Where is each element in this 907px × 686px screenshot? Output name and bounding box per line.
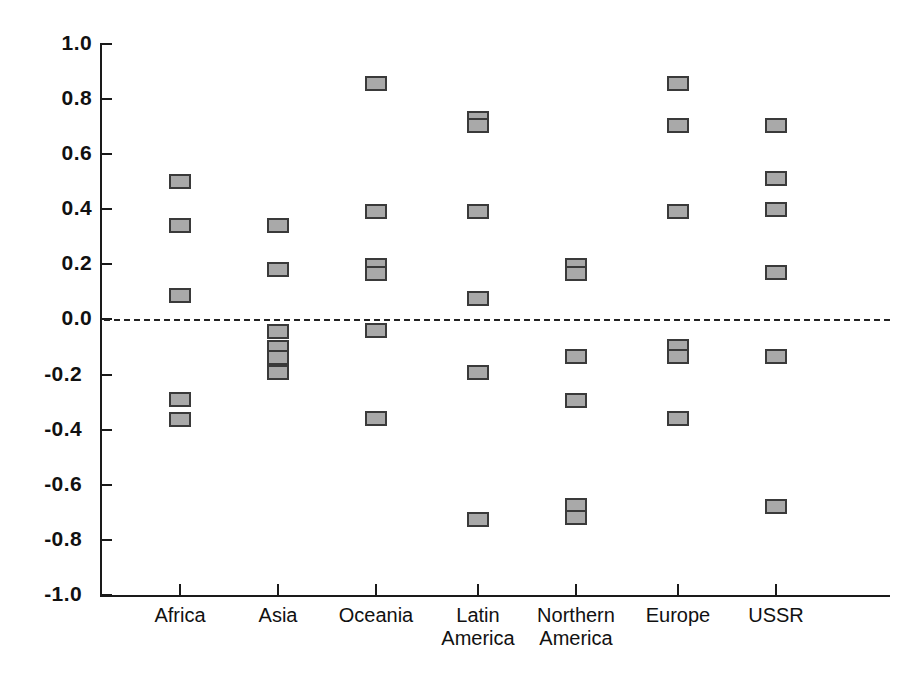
x-tick-label-ussr: USSR bbox=[711, 604, 841, 627]
y-tick-mark bbox=[102, 153, 112, 155]
x-tick-mark bbox=[277, 584, 279, 595]
x-tick-mark bbox=[775, 584, 777, 595]
data-point-marker bbox=[267, 262, 289, 277]
plot-area: 1.0 0.8 0.6 0.4 0.2 0.0 -0.2 -0.4 -0.6 -… bbox=[0, 0, 907, 686]
y-tick-mark bbox=[102, 98, 112, 100]
x-tick-mark bbox=[575, 584, 577, 595]
data-point-marker bbox=[365, 204, 387, 219]
data-point-marker bbox=[169, 218, 191, 233]
x-tick-mark bbox=[477, 584, 479, 595]
data-point-marker bbox=[667, 349, 689, 364]
data-point-marker bbox=[565, 266, 587, 281]
data-point-marker bbox=[365, 411, 387, 426]
data-point-marker bbox=[565, 349, 587, 364]
data-point-marker bbox=[667, 411, 689, 426]
data-point-marker bbox=[765, 499, 787, 514]
y-tick-label-7: -0.2 bbox=[12, 362, 82, 386]
data-point-marker bbox=[169, 288, 191, 303]
chart-root: 1.0 0.8 0.6 0.4 0.2 0.0 -0.2 -0.4 -0.6 -… bbox=[0, 0, 907, 686]
x-axis-line bbox=[100, 595, 890, 597]
data-point-marker bbox=[267, 218, 289, 233]
data-point-marker bbox=[765, 349, 787, 364]
y-tick-label-11: -1.0 bbox=[12, 582, 82, 606]
data-point-marker bbox=[765, 265, 787, 280]
data-point-marker bbox=[667, 118, 689, 133]
data-point-marker bbox=[169, 392, 191, 407]
data-point-marker bbox=[565, 510, 587, 525]
data-point-marker bbox=[365, 266, 387, 281]
x-tick-mark bbox=[677, 584, 679, 595]
data-point-marker bbox=[667, 76, 689, 91]
y-tick-mark bbox=[102, 43, 112, 45]
y-tick-label-8: -0.4 bbox=[12, 417, 82, 441]
data-point-marker bbox=[267, 324, 289, 339]
y-tick-label-9: -0.6 bbox=[12, 472, 82, 496]
x-tick-mark bbox=[375, 584, 377, 595]
y-tick-label-10: -0.8 bbox=[12, 527, 82, 551]
data-point-marker bbox=[267, 350, 289, 365]
data-point-marker bbox=[169, 174, 191, 189]
zero-reference-line bbox=[104, 319, 890, 321]
y-tick-label-5: 0.2 bbox=[22, 251, 92, 275]
data-point-marker bbox=[467, 291, 489, 306]
data-point-marker bbox=[565, 393, 587, 408]
y-tick-mark bbox=[102, 539, 112, 541]
y-tick-label-6: 0.0 bbox=[22, 306, 92, 330]
y-tick-label-4: 0.4 bbox=[22, 196, 92, 220]
data-point-marker bbox=[765, 118, 787, 133]
data-point-marker bbox=[765, 171, 787, 186]
data-point-marker bbox=[365, 323, 387, 338]
y-tick-label-1: 1.0 bbox=[22, 31, 92, 55]
y-tick-mark bbox=[102, 594, 112, 596]
data-point-marker bbox=[267, 365, 289, 380]
data-point-marker bbox=[667, 204, 689, 219]
y-tick-label-2: 0.8 bbox=[22, 86, 92, 110]
data-point-marker bbox=[467, 512, 489, 527]
y-tick-label-3: 0.6 bbox=[22, 141, 92, 165]
data-point-marker bbox=[467, 118, 489, 133]
data-point-marker bbox=[765, 202, 787, 217]
y-tick-mark bbox=[102, 374, 112, 376]
y-tick-mark bbox=[102, 263, 112, 265]
data-point-marker bbox=[169, 412, 191, 427]
y-tick-mark bbox=[102, 484, 112, 486]
data-point-marker bbox=[365, 76, 387, 91]
y-tick-mark bbox=[102, 208, 112, 210]
x-tick-mark bbox=[179, 584, 181, 595]
y-tick-mark bbox=[102, 429, 112, 431]
data-point-marker bbox=[467, 204, 489, 219]
data-point-marker bbox=[467, 365, 489, 380]
